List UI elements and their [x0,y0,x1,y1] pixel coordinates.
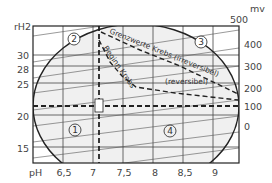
bottom-tick-8: 8 [152,167,158,178]
rh2-ph-diagram: Grenzwerte Krebs (irreversibel) Beginn K… [0,0,272,183]
right-tick-100: 100 [244,101,262,112]
reversible-label: (reversibel) [165,77,208,86]
zone-4-label: 4 [167,126,173,136]
bottom-axis-label: pH [29,167,42,178]
zone-1-label: 1 [72,125,78,135]
bottom-tick-9: 9 [212,167,218,178]
bottom-tick-6-5: 6,5 [56,167,71,178]
left-tick-25: 25 [17,79,29,90]
zone-3-label: 3 [198,37,204,47]
right-tick-500: 500 [230,14,248,25]
right-tick-0: 0 [244,121,250,132]
plot-area [33,6,239,183]
left-tick-28: 28 [17,64,29,75]
zone-2-label: 2 [71,34,77,44]
zone-2: 2 [68,33,80,45]
right-axis-label: mv [250,3,265,14]
bottom-tick-7: 7 [90,167,96,178]
bottom-tick-8-5: 8,5 [177,167,192,178]
left-tick-30: 30 [17,50,29,61]
left-tick-15: 15 [17,143,29,154]
left-tick-20: 20 [17,111,29,122]
zone-3: 3 [195,36,207,48]
right-tick-400: 400 [244,39,262,50]
right-tick-300: 300 [244,61,262,72]
bottom-tick-7-5: 7,5 [116,167,131,178]
left-axis-label: rH2 [14,21,31,32]
crosshair-marker [95,99,103,112]
right-tick-200: 200 [244,83,262,94]
